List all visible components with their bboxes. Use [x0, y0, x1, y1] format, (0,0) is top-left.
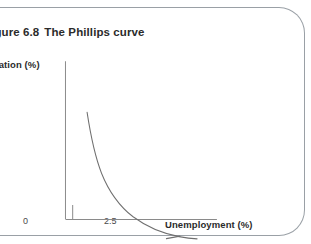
- x-axis-label-leader-line: [166, 236, 180, 238]
- phillips-curve-plot: [0, 8, 271, 244]
- figure-panel: Figure 6.8The Phillips curve Inflation (…: [0, 7, 305, 236]
